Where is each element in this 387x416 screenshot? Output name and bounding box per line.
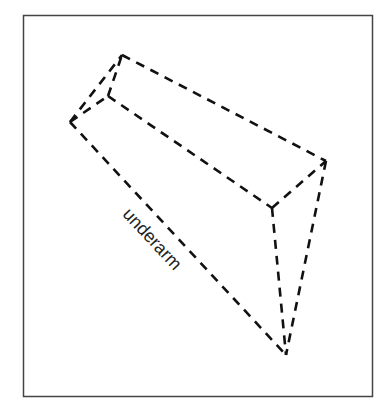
wedge-diagram: underarm xyxy=(0,0,387,416)
diagram-frame xyxy=(24,16,373,397)
